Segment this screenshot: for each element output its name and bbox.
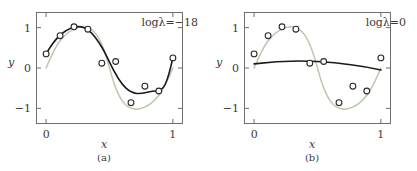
panel-a-caption: (a) bbox=[0, 152, 208, 163]
data-point bbox=[99, 60, 105, 66]
data-point bbox=[128, 100, 134, 106]
data-point bbox=[142, 83, 148, 89]
panel-b-x-axis-label: x bbox=[208, 138, 416, 151]
panel-b-data-points bbox=[251, 24, 384, 106]
data-point bbox=[71, 24, 77, 30]
data-point bbox=[43, 51, 49, 57]
figure-container: logλ=−18 y 1 0 −1 0 1 bbox=[0, 0, 417, 171]
data-point bbox=[57, 33, 63, 39]
panel-a-plot-area: 1 0 −1 0 1 bbox=[36, 12, 183, 124]
panel-a-ytick-neg1: −1 bbox=[15, 102, 31, 115]
data-point bbox=[279, 24, 285, 30]
data-point bbox=[113, 59, 119, 65]
panel-a-chart-svg bbox=[36, 12, 183, 124]
panel-b-ytick-1: 1 bbox=[232, 21, 239, 34]
data-point bbox=[293, 26, 299, 32]
panel-a: logλ=−18 y 1 0 −1 0 1 bbox=[0, 0, 208, 171]
panel-a-ytick-0: 0 bbox=[24, 62, 31, 75]
data-point bbox=[251, 51, 257, 57]
panel-a-true-curve bbox=[46, 27, 173, 110]
panel-a-y-axis-label: y bbox=[8, 56, 14, 69]
data-point bbox=[265, 33, 271, 39]
panel-b-chart-svg bbox=[244, 12, 391, 124]
data-point bbox=[321, 59, 327, 65]
panel-b: logλ=0 y 1 0 −1 0 1 bbox=[208, 0, 416, 171]
data-point bbox=[307, 60, 313, 66]
panel-b-true-curve bbox=[254, 27, 381, 110]
panel-b-ytick-0: 0 bbox=[232, 62, 239, 75]
panel-b-y-axis-label: y bbox=[216, 56, 222, 69]
data-point bbox=[85, 26, 91, 32]
panel-b-plot-area: 1 0 −1 0 1 bbox=[244, 12, 391, 124]
panel-b-ytick-neg1: −1 bbox=[223, 102, 239, 115]
data-point bbox=[336, 100, 342, 106]
data-point bbox=[350, 83, 356, 89]
data-point bbox=[378, 55, 384, 61]
data-point bbox=[156, 88, 162, 94]
panel-a-data-points bbox=[43, 24, 176, 106]
panel-a-ytick-1: 1 bbox=[24, 21, 31, 34]
data-point bbox=[364, 88, 370, 94]
panel-a-fit-curve bbox=[46, 27, 173, 94]
panel-b-caption: (b) bbox=[208, 152, 416, 163]
data-point bbox=[170, 55, 176, 61]
panel-a-x-axis-label: x bbox=[0, 138, 208, 151]
